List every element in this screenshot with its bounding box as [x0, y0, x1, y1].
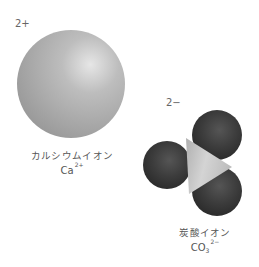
oxygen-atom-left: [143, 141, 191, 189]
calcium-formula: Ca2+: [27, 161, 117, 176]
carbonate-symbol: CO: [191, 242, 206, 253]
calcium-symbol: Ca: [61, 165, 74, 176]
carbonate-ion-model: [143, 110, 242, 216]
carbonate-ion-name: 炭酸イオン: [170, 225, 240, 239]
carbonate-subscript: 3: [206, 247, 210, 254]
calcium-charge: 2+: [15, 18, 30, 29]
carbonate-charge: 2−: [166, 97, 181, 108]
calcium-superscript: 2+: [75, 161, 84, 168]
carbonate-formula: CO32−: [170, 238, 240, 254]
calcium-ion-sphere: [17, 30, 125, 138]
carbonate-superscript: 2−: [210, 238, 219, 245]
calcium-ion-name: カルシウムイオン: [27, 148, 117, 162]
